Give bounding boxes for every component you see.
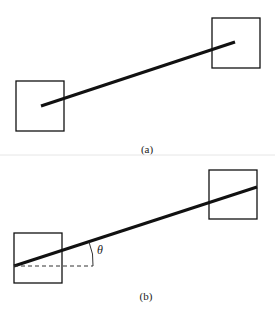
panel-b: θ (b) — [14, 170, 257, 303]
connecting-bar-b — [14, 187, 257, 266]
theta-label: θ — [97, 243, 103, 257]
panel-a: (a) — [16, 18, 260, 156]
right-box-a — [212, 18, 260, 68]
caption-a: (a) — [141, 143, 154, 156]
left-box-a — [16, 81, 64, 131]
caption-b: (b) — [140, 290, 153, 303]
angle-arc — [89, 242, 93, 266]
connecting-bar-a — [41, 42, 235, 106]
diagram-canvas: (a) θ (b) — [0, 0, 275, 310]
